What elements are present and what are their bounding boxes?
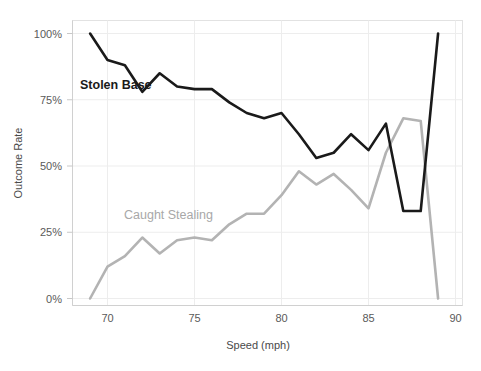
- x-tick-label-70: 70: [101, 312, 113, 324]
- chart-container: 100% 75% 50% 25% 0% 70 75 80 85 90 Speed…: [0, 0, 481, 371]
- y-tick-label-75: 75%: [40, 94, 62, 106]
- y-tick-label-50: 50%: [40, 160, 62, 172]
- x-tick-label-85: 85: [362, 312, 374, 324]
- y-tick-label-25: 25%: [40, 226, 62, 238]
- line-chart: 100% 75% 50% 25% 0% 70 75 80 85 90 Speed…: [0, 0, 481, 371]
- x-tick-label-80: 80: [275, 312, 287, 324]
- series-label-stolen-base: Stolen Base: [80, 78, 152, 92]
- x-tick-label-75: 75: [188, 312, 200, 324]
- y-tick-label-0: 0%: [46, 293, 62, 305]
- y-axis-title: Outcome Rate: [12, 128, 24, 199]
- x-tick-label-90: 90: [449, 312, 461, 324]
- series-label-caught-stealing: Caught Stealing: [124, 208, 213, 222]
- y-tick-label-100: 100%: [34, 28, 62, 40]
- x-axis-title: Speed (mph): [226, 339, 290, 351]
